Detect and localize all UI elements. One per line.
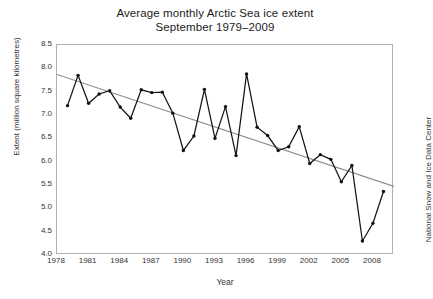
- data-point: [97, 92, 100, 95]
- data-point: [361, 239, 364, 242]
- data-series-line: [68, 74, 384, 241]
- data-point: [140, 88, 143, 91]
- data-point: [382, 190, 385, 193]
- chart-subtitle: September 1979–2009: [0, 20, 430, 34]
- data-point: [203, 88, 206, 91]
- y-axis-tick-label: 6.0: [24, 157, 52, 165]
- x-axis-tick-label: 2008: [352, 256, 392, 265]
- data-point: [192, 134, 195, 137]
- y-axis-tick-label: 8.5: [24, 40, 52, 48]
- plot-area: [56, 44, 393, 254]
- data-point: [276, 149, 279, 152]
- data-point: [224, 105, 227, 108]
- data-point: [245, 72, 248, 75]
- data-point: [66, 104, 69, 107]
- data-point: [150, 91, 153, 94]
- y-axis-tick-label: 5.0: [24, 203, 52, 211]
- data-point: [161, 90, 164, 93]
- y-axis-tick-label: 6.5: [24, 133, 52, 141]
- data-point: [87, 102, 90, 105]
- data-point: [340, 180, 343, 183]
- data-point: [255, 125, 258, 128]
- y-axis-tick-label: 7.5: [24, 87, 52, 95]
- chart-credit: National Snow and Ice Data Center: [424, 85, 433, 275]
- data-point: [76, 74, 79, 77]
- data-point: [234, 154, 237, 157]
- chart-title: Average monthly Arctic Sea ice extent Se…: [0, 6, 430, 34]
- y-axis-tick-label: 5.5: [24, 180, 52, 188]
- x-axis-label: Year: [56, 277, 394, 287]
- data-point: [350, 164, 353, 167]
- y-axis-tick-label: 4.5: [24, 227, 52, 235]
- data-point: [329, 158, 332, 161]
- data-point: [213, 137, 216, 140]
- data-point: [108, 89, 111, 92]
- data-point: [266, 134, 269, 137]
- data-point: [287, 145, 290, 148]
- data-point: [371, 222, 374, 225]
- y-axis-ticks: 8.58.07.57.06.56.05.55.04.54.0: [22, 0, 52, 299]
- data-point: [171, 111, 174, 114]
- data-point: [182, 149, 185, 152]
- data-point: [308, 162, 311, 165]
- chart-title-line1: Average monthly Arctic Sea ice extent: [116, 7, 313, 19]
- chart-svg: [57, 45, 394, 255]
- data-point: [319, 153, 322, 156]
- y-axis-tick-label: 7.0: [24, 110, 52, 118]
- y-axis-tick-label: 8.0: [24, 63, 52, 71]
- data-point: [118, 105, 121, 108]
- data-point: [129, 117, 132, 120]
- data-point: [298, 125, 301, 128]
- y-axis-label: Extent (million square kilometres): [12, 2, 21, 192]
